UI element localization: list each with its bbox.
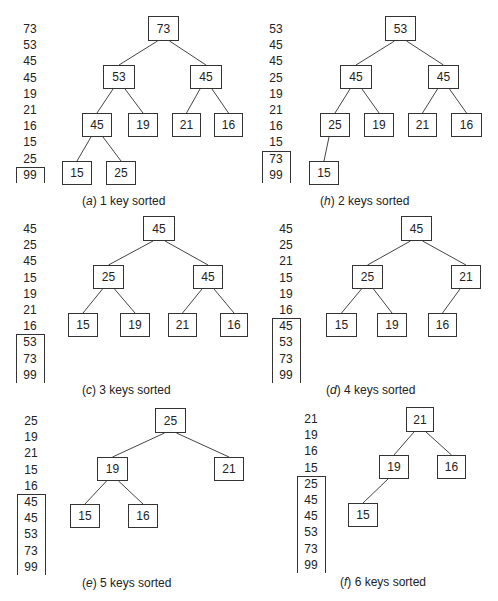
heap-node: 16: [437, 455, 466, 479]
caption-label: (f): [340, 575, 351, 589]
heap-array-item: 16: [297, 444, 325, 458]
tree-edge: [426, 432, 452, 455]
heap-node: 15: [348, 503, 378, 527]
heap-node: 19: [379, 455, 409, 479]
heap-root-node: 21: [406, 407, 434, 432]
heap-array-item: 21: [297, 412, 325, 426]
tree-edges: [0, 0, 498, 601]
caption-text: 6 keys sorted: [351, 575, 426, 589]
panel-caption: (f) 6 keys sorted: [340, 575, 426, 589]
heap-array-item: 19: [297, 428, 325, 442]
heap-array-item: 15: [297, 461, 325, 475]
tree-edge: [394, 432, 414, 455]
tree-edge: [363, 479, 388, 503]
sorted-region-bracket: [297, 476, 326, 573]
